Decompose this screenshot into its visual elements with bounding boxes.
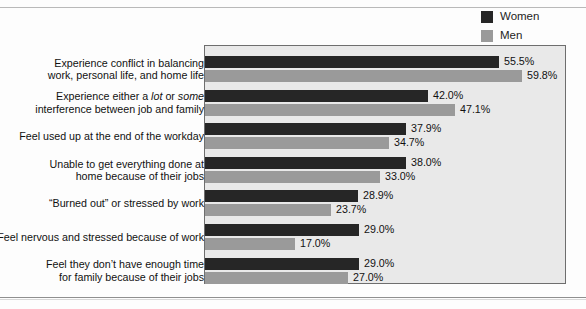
chart-row: Unable to get everything done athome bec… <box>0 157 586 183</box>
bar-men: 27.0% <box>205 272 348 284</box>
legend-item-women: Women <box>481 8 573 25</box>
bar-rect <box>205 204 331 216</box>
bar-value-label: 55.5% <box>504 55 534 68</box>
bar-rect <box>205 123 406 135</box>
bar-rect <box>205 157 406 169</box>
chart-rows: Experience conflict in balancingwork, pe… <box>0 45 586 284</box>
legend-swatch-men <box>481 30 493 42</box>
bar-men: 34.7% <box>205 137 389 149</box>
bar-value-label: 27.0% <box>353 271 383 284</box>
bar-men: 17.0% <box>205 238 295 250</box>
bar-men: 33.0% <box>205 171 380 183</box>
chart-row: “Burned out” or stressed by work28.9%23.… <box>0 190 586 216</box>
chart-page: Women Men Experience conflict in balanci… <box>0 0 586 309</box>
bar-women: 28.9% <box>205 190 358 202</box>
bar-value-label: 28.9% <box>363 189 393 202</box>
bar-women: 38.0% <box>205 157 406 169</box>
bar-women: 29.0% <box>205 224 359 236</box>
bar-rect <box>205 56 499 68</box>
bar-women: 29.0% <box>205 258 359 270</box>
bar-rect <box>205 70 522 82</box>
bar-rect <box>205 224 359 236</box>
bar-rect <box>205 171 380 183</box>
chart-row: Feel used up at the end of the workday37… <box>0 123 586 149</box>
bar-women: 55.5% <box>205 56 499 68</box>
bar-rect <box>205 190 358 202</box>
category-label: Experience either a lot or someinterfere… <box>0 90 204 114</box>
bar-rect <box>205 90 428 102</box>
chart-row: Experience conflict in balancingwork, pe… <box>0 56 586 82</box>
bar-rect <box>205 258 359 270</box>
bar-men: 23.7% <box>205 204 331 216</box>
bar-value-label: 47.1% <box>460 103 490 116</box>
legend-swatch-women <box>481 11 493 23</box>
bar-rect <box>205 137 389 149</box>
chart-legend: Women Men <box>481 8 573 46</box>
category-label: Feel they don’t have enough timefor fami… <box>0 258 204 282</box>
bar-rect <box>205 238 295 250</box>
category-label: Feel used up at the end of the workday <box>0 130 204 142</box>
category-label: Feel nervous and stressed because of wor… <box>0 231 204 243</box>
bar-value-label: 29.0% <box>364 223 394 236</box>
bar-value-label: 59.8% <box>527 69 557 82</box>
chart-row: Experience either a lot or someinterfere… <box>0 90 586 116</box>
bar-value-label: 33.0% <box>385 170 415 183</box>
bar-men: 59.8% <box>205 70 522 82</box>
bar-value-label: 29.0% <box>364 257 394 270</box>
chart-row: Feel nervous and stressed because of wor… <box>0 224 586 250</box>
bar-value-label: 34.7% <box>394 136 424 149</box>
legend-label-men: Men <box>500 30 522 42</box>
bar-women: 42.0% <box>205 90 428 102</box>
bar-value-label: 37.9% <box>411 122 441 135</box>
bottom-divider <box>0 297 586 298</box>
bar-value-label: 17.0% <box>300 237 330 250</box>
bar-rect <box>205 104 455 116</box>
legend-label-women: Women <box>500 11 539 23</box>
bar-rect <box>205 272 348 284</box>
bar-women: 37.9% <box>205 123 406 135</box>
bar-men: 47.1% <box>205 104 455 116</box>
category-label: Experience conflict in balancingwork, pe… <box>0 57 204 81</box>
bottom-divider-shadow <box>0 299 586 300</box>
category-label: “Burned out” or stressed by work <box>0 197 204 209</box>
bar-value-label: 38.0% <box>411 156 441 169</box>
category-label: Unable to get everything done athome bec… <box>0 158 204 182</box>
chart-row: Feel they don’t have enough timefor fami… <box>0 258 586 284</box>
bar-value-label: 42.0% <box>433 89 463 102</box>
bar-value-label: 23.7% <box>336 203 366 216</box>
legend-item-men: Men <box>481 27 573 44</box>
